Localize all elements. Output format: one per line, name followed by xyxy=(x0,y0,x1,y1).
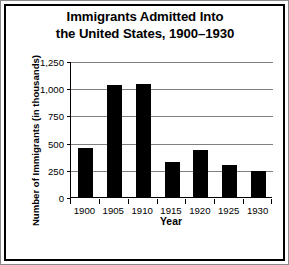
x-axis-title: Year xyxy=(70,216,272,227)
x-axis-tick-mark xyxy=(271,199,272,204)
x-axis-tick-mark xyxy=(128,199,129,204)
bar xyxy=(222,165,237,197)
chart-title: Immigrants Admitted Into the United Stat… xyxy=(14,8,276,42)
y-axis-tick-label: 0 xyxy=(18,193,64,204)
y-axis-tick-label: 500 xyxy=(18,138,64,149)
chart-title-line-1: Immigrants Admitted Into xyxy=(67,9,224,24)
x-axis-tick-mark xyxy=(99,199,100,204)
x-axis-tick-mark xyxy=(157,199,158,204)
y-axis-tick-label: 1,000 xyxy=(18,84,64,95)
x-axis-tick-mark xyxy=(214,199,215,204)
y-axis-tick-label: 250 xyxy=(18,165,64,176)
bar xyxy=(136,84,151,197)
x-axis-tick-label: 1930 xyxy=(241,205,275,216)
bar xyxy=(251,171,266,197)
chart-title-line-2: the United States, 1900–1930 xyxy=(14,25,276,42)
y-axis-tick-label: 750 xyxy=(18,111,64,122)
bar-series xyxy=(71,61,273,197)
bar xyxy=(78,148,93,197)
x-axis-tick-mark xyxy=(185,199,186,204)
x-axis-tick-mark xyxy=(70,199,71,204)
bar xyxy=(165,162,180,197)
chart-figure: Immigrants Admitted Into the United Stat… xyxy=(0,0,289,265)
plot-area xyxy=(70,62,272,198)
bar xyxy=(107,85,122,197)
bar xyxy=(193,150,208,197)
y-axis-tick-label: 1,250 xyxy=(18,57,64,68)
x-axis-tick-mark xyxy=(243,199,244,204)
